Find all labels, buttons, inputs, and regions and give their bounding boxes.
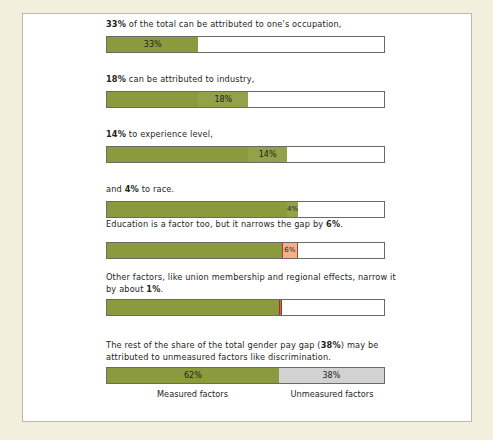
- step-caption: 18% can be attributed to industry,: [106, 74, 396, 86]
- step-caption: 33% of the total can be attributed to on…: [106, 19, 396, 31]
- bar-segment-2: 4%: [287, 202, 298, 217]
- infographic-panel: 33% of the total can be attributed to on…: [22, 13, 472, 422]
- bar-segment-2: 6%: [282, 243, 299, 258]
- bar-segment-2: 18%: [198, 92, 248, 107]
- segment-value-label: 14%: [259, 150, 277, 159]
- segment-value-label: 62%: [184, 371, 202, 380]
- step-caption: The rest of the share of the total gende…: [106, 340, 396, 363]
- step-caption: and 4% to race.: [106, 184, 396, 196]
- axis-label-row: Measured factorsUnmeasured factors: [106, 389, 385, 403]
- step-bar: 33%: [106, 36, 385, 53]
- bar-segment-2: [279, 300, 282, 315]
- step-bar: 14%: [106, 146, 385, 163]
- step-caption: 14% to experience level,: [106, 129, 396, 141]
- segment-value-label: 33%: [144, 40, 162, 49]
- step-bar: [106, 299, 385, 316]
- segment-value-label: 6%: [284, 247, 295, 254]
- bar-segment-2: 38%: [279, 368, 384, 383]
- segment-value-label: 18%: [214, 95, 232, 104]
- bar-segment-1: 33%: [107, 37, 198, 52]
- bar-segment-1: [107, 300, 279, 315]
- step-caption: Education is a factor too, but it narrow…: [106, 219, 396, 231]
- bar-segment-2: 14%: [248, 147, 287, 162]
- axis-label-2: Unmeasured factors: [291, 389, 374, 399]
- step-bar: 4%: [106, 201, 385, 218]
- segment-value-label: 4%: [287, 206, 298, 213]
- bar-segment-1: [107, 92, 198, 107]
- bar-segment-1: [107, 202, 287, 217]
- bar-segment-1: 62%: [107, 368, 279, 383]
- step-bar: 6%: [106, 242, 385, 259]
- step-caption: Other factors, like union membership and…: [106, 272, 396, 295]
- bar-segment-1: [107, 147, 248, 162]
- axis-label-1: Measured factors: [157, 389, 228, 399]
- segment-value-label: 38%: [322, 371, 340, 380]
- step-bar: 62%38%: [106, 367, 385, 384]
- bar-segment-1: [107, 243, 282, 258]
- step-bar: 18%: [106, 91, 385, 108]
